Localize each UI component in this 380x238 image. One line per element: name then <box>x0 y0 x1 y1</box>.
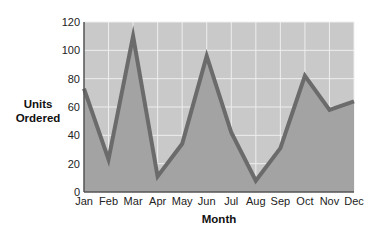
x-tick-label: Jun <box>198 195 216 207</box>
x-tick-label: Aug <box>246 195 266 207</box>
x-tick-label: Apr <box>149 195 166 207</box>
y-axis-title-line-1: Units <box>24 98 53 110</box>
y-axis-tick-labels: 020406080100120 <box>62 16 80 198</box>
x-tick-label: Sep <box>271 195 291 207</box>
x-tick-label: Jul <box>224 195 238 207</box>
x-tick-label: Nov <box>320 195 340 207</box>
chart-canvas: 020406080100120 JanFebMarAprMayJunJulAug… <box>0 0 380 238</box>
y-tick-label: 40 <box>68 129 80 141</box>
x-tick-label: Dec <box>344 195 364 207</box>
y-tick-label: 120 <box>62 16 80 28</box>
x-tick-label: Oct <box>296 195 313 207</box>
y-tick-label: 100 <box>62 44 80 56</box>
x-tick-label: Jan <box>75 195 93 207</box>
y-tick-label: 60 <box>68 101 80 113</box>
x-tick-label: Feb <box>99 195 118 207</box>
line-area-chart: 020406080100120 JanFebMarAprMayJunJulAug… <box>0 0 380 238</box>
x-axis-title: Month <box>202 213 236 225</box>
y-tick-label: 20 <box>68 158 80 170</box>
y-axis-title-line-2: Ordered <box>16 112 61 124</box>
x-tick-label: May <box>172 195 193 207</box>
x-tick-label: Mar <box>124 195 143 207</box>
x-axis-tick-labels: JanFebMarAprMayJunJulAugSepOctNovDec <box>75 195 364 207</box>
y-tick-label: 80 <box>68 73 80 85</box>
